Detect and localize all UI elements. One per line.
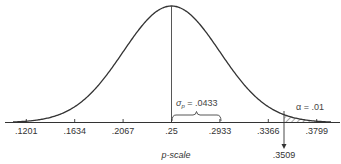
x-tick-label: .1634 bbox=[63, 126, 86, 136]
alpha-annotation: α = .01 bbox=[296, 102, 324, 112]
sigma-brace bbox=[172, 112, 221, 122]
sigma-annotation: σp = .0433 bbox=[176, 98, 218, 109]
x-tick-label: .3799 bbox=[305, 126, 328, 136]
x-tick-label: .3366 bbox=[257, 126, 280, 136]
arrow-down-icon bbox=[282, 144, 287, 149]
normal-distribution-chart: .1201.1634.2067.25.2933.3366.3799 σp = .… bbox=[0, 0, 341, 164]
x-tick-label: .2067 bbox=[112, 126, 135, 136]
normal-curve bbox=[13, 6, 331, 122]
critical-value-label: .3509 bbox=[273, 150, 296, 160]
x-tick-label: .2933 bbox=[209, 126, 232, 136]
x-axis-label: p-scale bbox=[160, 150, 190, 160]
x-tick-label: .1201 bbox=[15, 126, 38, 136]
x-tick-label: .25 bbox=[165, 126, 178, 136]
x-axis-ticks: .1201.1634.2067.25.2933.3366.3799 bbox=[15, 119, 328, 136]
